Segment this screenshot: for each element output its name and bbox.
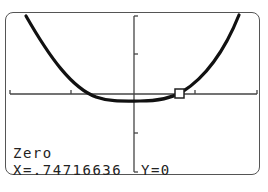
function-curve: [26, 15, 239, 101]
x-readout: X=.74716636: [13, 163, 122, 177]
y-readout: Y=0: [141, 163, 171, 177]
mode-label: Zero: [13, 146, 53, 160]
zero-cursor-marker: [175, 89, 184, 98]
